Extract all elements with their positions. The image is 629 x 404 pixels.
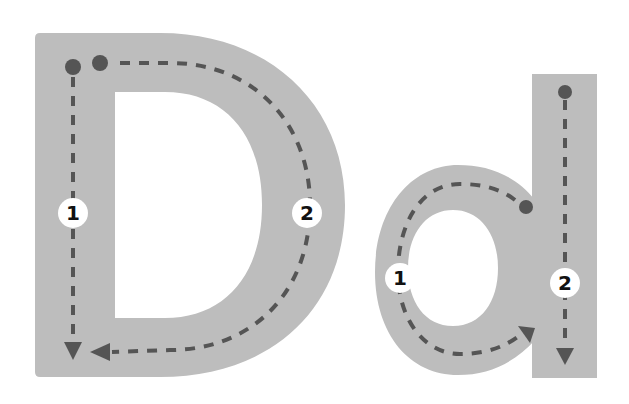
lowercase-d-stroke-1-badge: 1 [385, 263, 415, 293]
lowercase-d-stroke-2-start-dot [558, 85, 572, 99]
uppercase-d-stroke-2-badge: 2 [292, 198, 322, 228]
badge-number: 2 [558, 271, 572, 295]
tracing-worksheet: 1 2 1 2 [0, 0, 629, 404]
uppercase-d-stroke-1-start-dot [65, 59, 81, 75]
lowercase-d-stroke-1-start-dot [519, 200, 533, 214]
badge-number: 1 [393, 266, 407, 290]
uppercase-d-stroke-1-badge: 1 [58, 198, 88, 228]
lowercase-d-stroke-2-badge: 2 [550, 268, 580, 298]
badge-number: 1 [66, 201, 80, 225]
lowercase-d-letter: 1 2 [375, 74, 597, 378]
uppercase-d-stroke-2-start-dot [92, 55, 108, 71]
uppercase-d-letter: 1 2 [35, 33, 345, 377]
badge-number: 2 [300, 201, 314, 225]
